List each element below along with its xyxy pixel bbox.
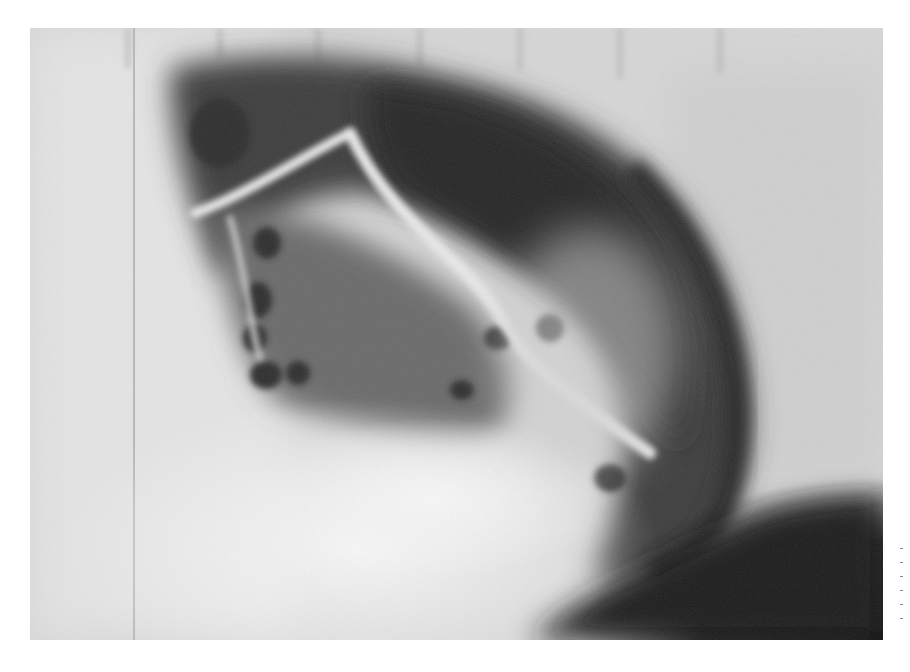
radiograph-image [30,28,883,640]
scan-edge-marks [900,548,904,638]
film-grain [30,28,883,640]
radiograph-illustration [30,28,883,640]
